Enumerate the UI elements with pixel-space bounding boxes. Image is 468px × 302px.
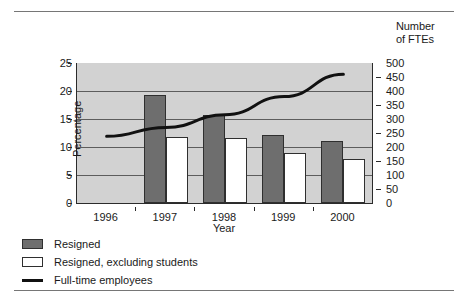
left-tick-mark [68, 203, 72, 204]
right-tick-label-500: 500 [386, 58, 404, 69]
right-axis-tick-labels: 050100150200250300350400450500 [376, 55, 416, 211]
legend-label-full-time-employees: Full-time employees [54, 273, 152, 287]
right-tick-mark [376, 161, 381, 162]
black-line-swatch-icon [22, 279, 43, 282]
legend-label-resigned-excluding-students: Resigned, excluding students [54, 255, 198, 269]
right-axis-line [372, 63, 373, 204]
right-tick-mark [376, 77, 381, 78]
left-tick-mark [68, 175, 72, 176]
right-tick-label-250: 250 [386, 128, 404, 139]
right-tick-label-300: 300 [386, 114, 404, 125]
right-tick-label-150: 150 [386, 156, 404, 167]
left-axis-tick-labels: 0510152025 [40, 55, 72, 211]
legend-label-resigned: Resigned [54, 237, 100, 251]
right-tick-label-450: 450 [386, 72, 404, 83]
chart-figure: Number of FTEs Percentage 0510152025 050… [0, 0, 468, 302]
right-tick-label-350: 350 [386, 100, 404, 111]
legend-item-resigned: Resigned [22, 236, 322, 252]
right-tick-label-200: 200 [386, 142, 404, 153]
x-tick-mark [254, 207, 255, 211]
right-tick-label-100: 100 [386, 170, 404, 181]
legend-item-resigned-excluding-students: Resigned, excluding students [22, 254, 322, 270]
x-axis-title: Year [76, 222, 372, 234]
right-tick-label-50: 50 [386, 184, 398, 195]
right-tick-mark [376, 189, 381, 190]
x-tick-mark [194, 207, 195, 211]
right-tick-mark [376, 105, 381, 106]
x-axis-tick-labels: 19961997199819992000 [76, 207, 372, 223]
left-tick-mark [68, 147, 72, 148]
white-square-swatch-icon [22, 257, 43, 267]
chart-legend: Resigned Resigned, excluding students Fu… [22, 236, 322, 290]
left-tick-mark [68, 119, 72, 120]
right-tick-label-0: 0 [386, 198, 392, 209]
full-time-employees-line [77, 63, 373, 203]
left-tick-mark [68, 63, 72, 64]
legend-item-full-time-employees: Full-time employees [22, 272, 322, 288]
x-tick-mark [313, 207, 314, 211]
plot-area: Percentage [76, 63, 373, 204]
right-tick-label-400: 400 [386, 86, 404, 97]
right-tick-mark [376, 133, 381, 134]
x-tick-mark [135, 207, 136, 211]
left-tick-mark [68, 91, 72, 92]
dark-square-swatch-icon [22, 239, 43, 249]
